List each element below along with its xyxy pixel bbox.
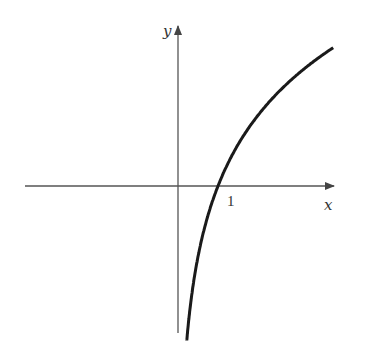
log-graph: y x 1	[0, 0, 366, 345]
y-axis-label: y	[162, 22, 172, 40]
log-curve	[187, 48, 333, 341]
x-tick-label-1: 1	[227, 193, 235, 209]
x-axis-label: x	[324, 196, 333, 214]
